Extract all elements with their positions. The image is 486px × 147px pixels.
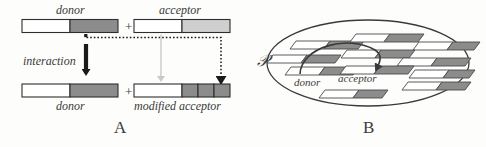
- agent-bar: [350, 34, 424, 42]
- modified-acceptor-label: modified acceptor: [134, 99, 221, 114]
- interaction-label: interaction: [23, 54, 76, 69]
- bottom-modified-acceptor-bar: [134, 84, 230, 97]
- panel-b-donor-label: donor: [294, 76, 320, 88]
- top-donor-bar: [22, 20, 118, 33]
- agent-bar-acceptor: [341, 50, 415, 58]
- dotted-path-origin-dot: [84, 34, 87, 37]
- plus-sign-bottom: +: [125, 84, 132, 99]
- agent-bars-group: [267, 34, 480, 98]
- agent-bar: [402, 82, 471, 90]
- agent-bar: [397, 58, 471, 66]
- top-acceptor-label: acceptor: [159, 3, 201, 18]
- agent-bar: [319, 90, 388, 98]
- bottom-donor-bar: [22, 84, 118, 97]
- bottom-donor-label: donor: [56, 99, 85, 114]
- panel-b-acceptor-label: acceptor: [338, 72, 376, 84]
- panel-b-letter: B: [363, 118, 374, 138]
- agent-bar: [409, 70, 475, 78]
- agent-bar: [413, 42, 480, 50]
- plus-sign-top: +: [125, 19, 132, 34]
- figure-root: + + donor acceptor interaction do: [0, 0, 486, 147]
- panel-a-letter: A: [114, 118, 126, 138]
- top-donor-label: donor: [56, 3, 85, 18]
- donor-transfer-dotted-arrow: [86, 35, 221, 80]
- top-acceptor-bar: [134, 20, 230, 33]
